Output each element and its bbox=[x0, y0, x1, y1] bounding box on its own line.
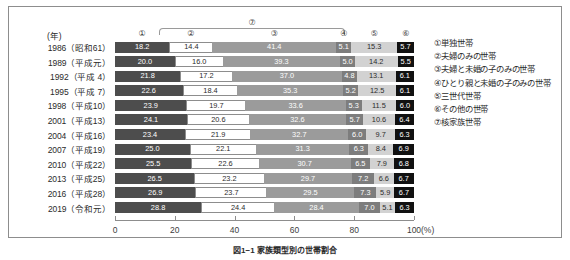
x-axis-tick-label: 80 bbox=[349, 225, 358, 235]
bar-segment-4: 5.1 bbox=[336, 42, 351, 53]
bar-segment-2: 22.1 bbox=[190, 144, 256, 155]
bar-segment-value: 6.7 bbox=[399, 189, 409, 196]
bar-segment-value: 23.2 bbox=[222, 175, 236, 182]
bar-segment-4: 6.0 bbox=[348, 129, 366, 140]
bar-segment-value: 26.5 bbox=[147, 175, 161, 182]
bar-segment-value: 26.9 bbox=[148, 189, 162, 196]
bar-segment-5: 14.2 bbox=[355, 56, 397, 67]
bar-segment-3: 32.7 bbox=[250, 129, 348, 140]
bar-segment-value: 10.6 bbox=[372, 116, 386, 123]
bar-segment-2: 18.4 bbox=[183, 85, 238, 96]
legend-item-6: ⑥その他の世帯 bbox=[434, 103, 559, 116]
bar-segment-value: 6.6 bbox=[379, 175, 389, 182]
bar-segment-3: 35.3 bbox=[237, 85, 342, 96]
bar-segment-5: 15.3 bbox=[351, 42, 397, 53]
bar-segment-value: 5.0 bbox=[342, 58, 352, 65]
bar-segment-4: 7.2 bbox=[352, 173, 374, 184]
stacked-bar: 18.214.441.45.115.35.7 bbox=[115, 42, 414, 53]
bar-segment-2: 19.7 bbox=[186, 100, 245, 111]
chart-row: 2019（令和元）28.824.428.47.05.16.3 bbox=[9, 201, 561, 216]
legend-item-3: ③夫婦と未婚の子のみの世帯 bbox=[434, 63, 559, 76]
bar-segment-1: 18.2 bbox=[115, 42, 169, 53]
bar-segment-6: 6.7 bbox=[394, 187, 414, 198]
row-year-label: 2019（令和元） bbox=[19, 202, 111, 214]
bar-segment-value: 7.0 bbox=[364, 204, 374, 211]
bar-segment-1: 23.4 bbox=[115, 129, 185, 140]
stacked-bar: 28.824.428.47.05.16.3 bbox=[115, 202, 414, 213]
bar-segment-4: 7.3 bbox=[354, 187, 376, 198]
bar-segment-value: 6.3 bbox=[399, 131, 409, 138]
bar-segment-2: 17.2 bbox=[180, 71, 231, 82]
bar-segment-value: 6.5 bbox=[355, 160, 365, 167]
bar-segment-1: 23.9 bbox=[115, 100, 186, 111]
bar-segment-1: 28.8 bbox=[115, 202, 201, 213]
column-header-3: ③ bbox=[254, 29, 294, 38]
bar-segment-4: 5.2 bbox=[343, 85, 359, 96]
bar-segment-value: 14.4 bbox=[184, 43, 198, 50]
bar-segment-value: 20.6 bbox=[211, 116, 225, 123]
bar-segment-value: 8.4 bbox=[376, 145, 386, 152]
legend-item-2: ②夫婦のみの世帯 bbox=[434, 50, 559, 63]
bar-segment-5: 9.7 bbox=[366, 129, 395, 140]
stacked-bar: 22.618.435.35.212.56.1 bbox=[115, 85, 414, 96]
figure-caption: 図1−1 家族類型別の世帯割合 bbox=[0, 244, 570, 255]
bar-segment-6: 6.3 bbox=[395, 129, 414, 140]
stacked-bar: 25.022.131.36.38.46.9 bbox=[115, 144, 414, 155]
stacked-bar: 25.522.630.76.57.96.8 bbox=[115, 158, 414, 169]
bar-segment-6: 6.4 bbox=[395, 114, 414, 125]
bar-segment-6: 6.3 bbox=[395, 202, 414, 213]
row-year-label: 2016（平成28） bbox=[19, 187, 111, 199]
bar-segment-value: 6.4 bbox=[399, 116, 409, 123]
bar-segment-value: 5.7 bbox=[349, 116, 359, 123]
bar-segment-3: 30.7 bbox=[259, 158, 351, 169]
column-header-2: ② bbox=[171, 29, 211, 38]
bar-segment-1: 22.6 bbox=[115, 85, 183, 96]
bar-segment-value: 22.6 bbox=[218, 160, 232, 167]
bar-segment-3: 37.0 bbox=[232, 71, 343, 82]
column-header-1: ① bbox=[122, 29, 162, 38]
bar-segment-5: 6.6 bbox=[374, 173, 394, 184]
bar-segment-value: 31.3 bbox=[295, 145, 309, 152]
bar-segment-value: 12.5 bbox=[370, 87, 384, 94]
row-year-label: 1992（平成 4） bbox=[19, 70, 111, 82]
bar-segment-4: 5.7 bbox=[346, 114, 363, 125]
legend-item-1: ①単独世帯 bbox=[434, 37, 559, 50]
bar-segment-3: 28.4 bbox=[274, 202, 359, 213]
bar-segment-value: 32.7 bbox=[292, 131, 306, 138]
bar-segment-4: 5.3 bbox=[346, 100, 362, 111]
x-axis-unit-label: (%) bbox=[421, 225, 434, 235]
chart-row: 2016（平成28）26.923.729.57.35.96.7 bbox=[9, 186, 561, 201]
bar-segment-value: 5.2 bbox=[346, 87, 356, 94]
bar-segment-value: 39.3 bbox=[274, 58, 288, 65]
bar-segment-2: 22.6 bbox=[191, 158, 259, 169]
bar-segment-5: 5.1 bbox=[380, 202, 395, 213]
bar-segment-value: 33.6 bbox=[288, 102, 302, 109]
stacked-bar: 20.016.039.35.014.25.5 bbox=[115, 56, 414, 67]
bar-segment-value: 18.2 bbox=[135, 43, 149, 50]
bar-segment-value: 4.8 bbox=[344, 72, 354, 79]
bar-segment-value: 22.6 bbox=[142, 87, 156, 94]
bar-segment-value: 28.8 bbox=[151, 204, 165, 211]
bar-segment-2: 23.2 bbox=[194, 173, 263, 184]
bar-segment-1: 25.5 bbox=[115, 158, 191, 169]
row-year-label: 2010（平成22） bbox=[19, 158, 111, 170]
legend: ①単独世帯②夫婦のみの世帯③夫婦と未婚の子のみの世帯④ひとり親と未婚の子のみの世… bbox=[434, 37, 559, 129]
legend-item-7: ⑦核家族世帯 bbox=[434, 116, 559, 129]
bar-segment-2: 16.0 bbox=[175, 56, 223, 67]
chart-row: 2013（平成25）26.523.229.77.26.66.7 bbox=[9, 171, 561, 186]
bar-segment-3: 32.6 bbox=[249, 114, 346, 125]
bar-segment-value: 22.1 bbox=[216, 145, 230, 152]
bar-segment-value: 6.7 bbox=[399, 175, 409, 182]
bar-segment-value: 23.9 bbox=[144, 102, 158, 109]
bar-segment-1: 24.1 bbox=[115, 114, 187, 125]
bar-segment-value: 25.0 bbox=[145, 145, 159, 152]
bar-segment-value: 6.0 bbox=[400, 102, 410, 109]
bar-segment-5: 8.4 bbox=[368, 144, 393, 155]
row-year-label: 1986（昭和61） bbox=[19, 41, 111, 53]
bar-segment-3: 33.6 bbox=[245, 100, 345, 111]
stacked-bar: 21.817.237.04.813.16.1 bbox=[115, 71, 414, 82]
bar-segment-value: 25.5 bbox=[146, 160, 160, 167]
legend-item-4: ④ひとり親と未婚の子のみの世帯 bbox=[434, 77, 559, 90]
bar-segment-2: 24.4 bbox=[201, 202, 274, 213]
bar-segment-value: 7.9 bbox=[377, 160, 387, 167]
